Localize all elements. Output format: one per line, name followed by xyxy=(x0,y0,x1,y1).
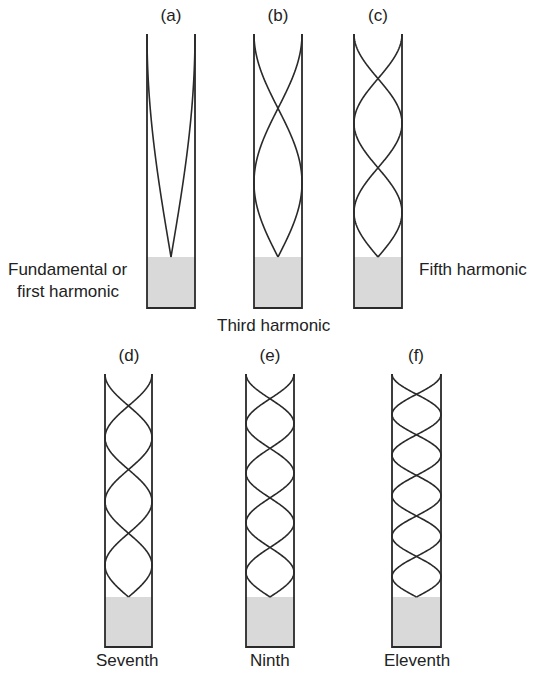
tube-a-wave-right xyxy=(171,34,195,257)
tube-b-water xyxy=(254,257,302,308)
caption-seventh: Seventh xyxy=(96,651,158,671)
caption-third: Third harmonic xyxy=(217,316,330,336)
caption-eleventh: Eleventh xyxy=(384,651,450,671)
tube-a-wave-left xyxy=(147,34,171,257)
tube-b-tag: (b) xyxy=(268,6,289,26)
caption-fifth: Fifth harmonic xyxy=(419,260,527,280)
caption-fundamental-line2: first harmonic xyxy=(17,282,119,302)
caption-fundamental-line1: Fundamental or xyxy=(8,260,127,280)
caption-ninth: Ninth xyxy=(250,651,290,671)
tube-f-tag: (f) xyxy=(408,346,424,366)
tube-f-water xyxy=(392,597,441,647)
tube-e-tag: (e) xyxy=(260,346,281,366)
tube-c-water xyxy=(354,257,402,308)
tube-a-water xyxy=(147,257,195,308)
tube-a-tag: (a) xyxy=(161,6,182,26)
tube-d-tag: (d) xyxy=(119,346,140,366)
tube-d-water xyxy=(105,597,152,647)
harmonics-figure xyxy=(0,0,548,675)
tube-e-water xyxy=(246,597,294,647)
tube-c-tag: (c) xyxy=(368,6,388,26)
